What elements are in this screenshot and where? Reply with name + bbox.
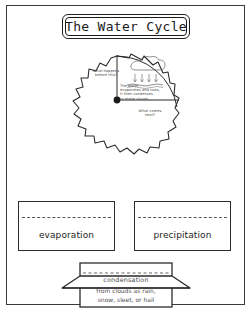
water-cycle-wheel: What happens before this? The water evap… [47, 52, 187, 187]
page-title: The Water Cycle [65, 19, 187, 34]
wheel-label-before: What happens before this? [85, 69, 127, 77]
fold-line [138, 217, 227, 218]
title-banner-inner: The Water Cycle [65, 17, 187, 36]
wheel-label-explanation: The water evaporates and rises, it then … [120, 84, 164, 101]
flap-condensation: condensation from clouds as rain, snow, … [60, 262, 192, 308]
wheel-label-next: What comes next? [130, 109, 170, 117]
flap-label-evaporation: evaporation [19, 230, 114, 240]
flap-precipitation: precipitation [134, 201, 231, 251]
fold-line [22, 217, 111, 218]
flap-label-precipitation: precipitation [135, 230, 230, 240]
title-banner: The Water Cycle [62, 14, 190, 39]
condensation-line-2: snow, sleet, or hail [60, 296, 192, 303]
condensation-line-1: from clouds as rain, [60, 287, 192, 294]
flap-evaporation: evaporation [18, 201, 115, 251]
condensation-title: condensation [60, 276, 192, 284]
worksheet-page: The Water Cycle [0, 0, 252, 312]
